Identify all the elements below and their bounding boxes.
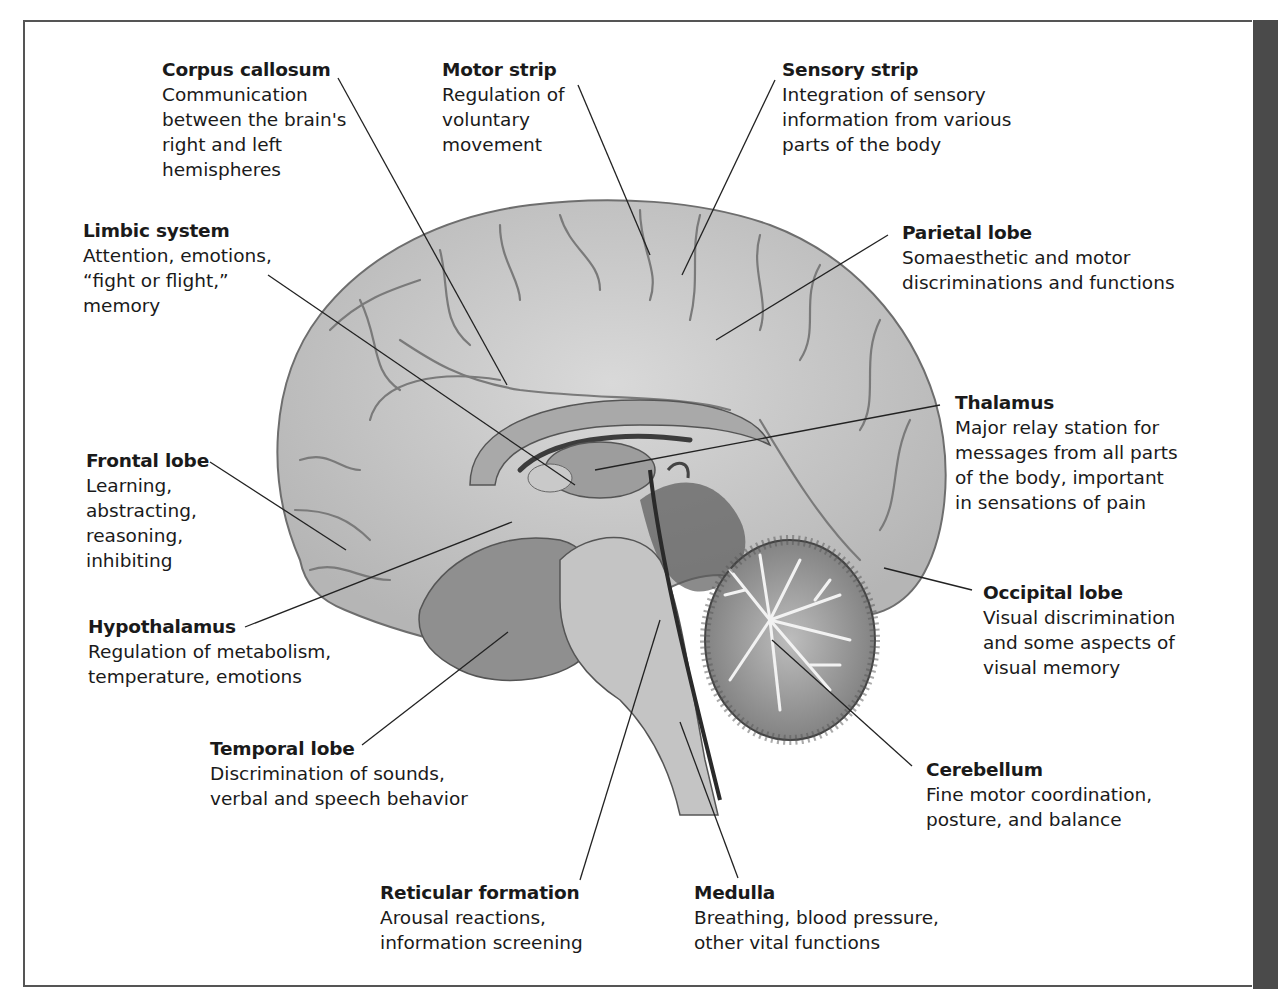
label-desc-line: Integration of sensory	[782, 82, 1011, 107]
label-desc-line: abstracting,	[86, 498, 209, 523]
label-desc-line: Regulation of	[442, 82, 565, 107]
label-desc-line: hemispheres	[162, 157, 346, 182]
label-sensory-strip: Sensory strip Integration of sensory inf…	[782, 57, 1011, 157]
label-reticular-formation: Reticular formation Arousal reactions, i…	[380, 880, 583, 955]
label-motor-strip: Motor strip Regulation of voluntary move…	[442, 57, 565, 157]
label-title: Medulla	[694, 880, 939, 905]
label-desc-line: memory	[83, 293, 272, 318]
label-temporal-lobe: Temporal lobe Discrimination of sounds, …	[210, 736, 468, 811]
label-desc-line: of the body, important	[955, 465, 1178, 490]
label-desc-line: in sensations of pain	[955, 490, 1178, 515]
label-desc-line: Discrimination of sounds,	[210, 761, 468, 786]
label-desc-line: voluntary	[442, 107, 565, 132]
label-desc-line: information from various	[782, 107, 1011, 132]
label-desc-line: messages from all parts	[955, 440, 1178, 465]
label-desc-line: Major relay station for	[955, 415, 1178, 440]
label-desc-line: and some aspects of	[983, 630, 1175, 655]
label-desc-line: Communication	[162, 82, 346, 107]
label-desc-line: Regulation of metabolism,	[88, 639, 331, 664]
label-desc-line: movement	[442, 132, 565, 157]
label-desc-line: Breathing, blood pressure,	[694, 905, 939, 930]
label-desc-line: “fight or flight,”	[83, 268, 272, 293]
label-limbic-system: Limbic system Attention, emotions, “figh…	[83, 218, 272, 318]
label-desc-line: posture, and balance	[926, 807, 1152, 832]
label-cerebellum: Cerebellum Fine motor coordination, post…	[926, 757, 1152, 832]
label-frontal-lobe: Frontal lobe Learning, abstracting, reas…	[86, 448, 209, 573]
label-title: Cerebellum	[926, 757, 1152, 782]
label-thalamus: Thalamus Major relay station for message…	[955, 390, 1178, 515]
label-desc-line: Visual discrimination	[983, 605, 1175, 630]
label-desc-line: Attention, emotions,	[83, 243, 272, 268]
label-desc-line: Learning,	[86, 473, 209, 498]
label-occipital-lobe: Occipital lobe Visual discrimination and…	[983, 580, 1175, 680]
label-desc-line: other vital functions	[694, 930, 939, 955]
label-desc-line: verbal and speech behavior	[210, 786, 468, 811]
label-title: Corpus callosum	[162, 57, 346, 82]
label-title: Limbic system	[83, 218, 272, 243]
label-medulla: Medulla Breathing, blood pressure, other…	[694, 880, 939, 955]
label-desc-line: temperature, emotions	[88, 664, 331, 689]
label-desc-line: Arousal reactions,	[380, 905, 583, 930]
label-desc-line: Fine motor coordination,	[926, 782, 1152, 807]
label-title: Parietal lobe	[902, 220, 1175, 245]
label-desc-line: inhibiting	[86, 548, 209, 573]
label-hypothalamus: Hypothalamus Regulation of metabolism, t…	[88, 614, 331, 689]
label-desc-line: parts of the body	[782, 132, 1011, 157]
label-desc-line: between the brain's	[162, 107, 346, 132]
label-corpus-callosum: Corpus callosum Communication between th…	[162, 57, 346, 182]
label-title: Hypothalamus	[88, 614, 331, 639]
label-desc-line: reasoning,	[86, 523, 209, 548]
label-parietal-lobe: Parietal lobe Somaesthetic and motor dis…	[902, 220, 1175, 295]
label-desc-line: discriminations and functions	[902, 270, 1175, 295]
label-desc-line: information screening	[380, 930, 583, 955]
label-title: Thalamus	[955, 390, 1178, 415]
label-title: Sensory strip	[782, 57, 1011, 82]
label-title: Temporal lobe	[210, 736, 468, 761]
label-title: Occipital lobe	[983, 580, 1175, 605]
label-desc-line: visual memory	[983, 655, 1175, 680]
label-title: Frontal lobe	[86, 448, 209, 473]
label-title: Reticular formation	[380, 880, 583, 905]
label-desc-line: Somaesthetic and motor	[902, 245, 1175, 270]
label-desc-line: right and left	[162, 132, 346, 157]
label-title: Motor strip	[442, 57, 565, 82]
